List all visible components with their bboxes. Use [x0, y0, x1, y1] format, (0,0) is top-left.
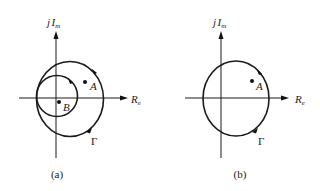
panel-a: jIm Re A B Γ (a): [19, 16, 141, 181]
point-a-label: A: [255, 80, 263, 92]
real-axis-label: Re: [294, 93, 305, 107]
real-axis-arrow-icon: [120, 96, 128, 101]
point-a-marker: [83, 80, 87, 84]
point-b-marker: [57, 100, 61, 104]
panel-b-caption: (b): [234, 168, 247, 181]
nyquist-diagram-figure: jIm Re A B Γ (a) jIm Re: [0, 0, 320, 191]
real-axis-arrow-icon: [281, 96, 289, 101]
contour-gamma-label: Γ: [91, 135, 97, 147]
imaginary-axis-label: jIm: [211, 16, 226, 30]
point-a-label: A: [89, 80, 97, 92]
panel-a-caption: (a): [51, 168, 64, 181]
panel-b: jIm Re A Γ (b): [185, 16, 305, 181]
real-axis-label: Re: [130, 93, 141, 107]
imaginary-axis-arrow-icon: [54, 31, 59, 39]
imaginary-axis-label: jIm: [45, 16, 60, 30]
contour-gamma-label: Γ: [258, 135, 264, 147]
imaginary-axis-arrow-icon: [219, 31, 224, 39]
contour-small-direction-arrow-icon: [68, 78, 73, 84]
contour-direction-arrow-icon: [257, 69, 263, 75]
point-b-label: B: [63, 101, 70, 113]
point-a-marker: [250, 79, 254, 83]
